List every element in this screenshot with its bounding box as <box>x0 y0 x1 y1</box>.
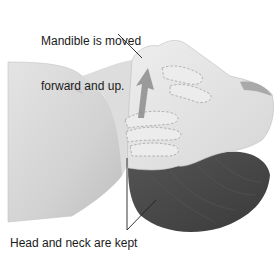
annotation-mandible-line1: Mandible is moved <box>41 34 141 49</box>
annotation-head-neck: Head and neck are kept <box>10 236 137 251</box>
annotation-mandible-line2: forward and up. <box>41 79 141 94</box>
annotation-mandible: Mandible is moved forward and up. <box>41 4 141 109</box>
